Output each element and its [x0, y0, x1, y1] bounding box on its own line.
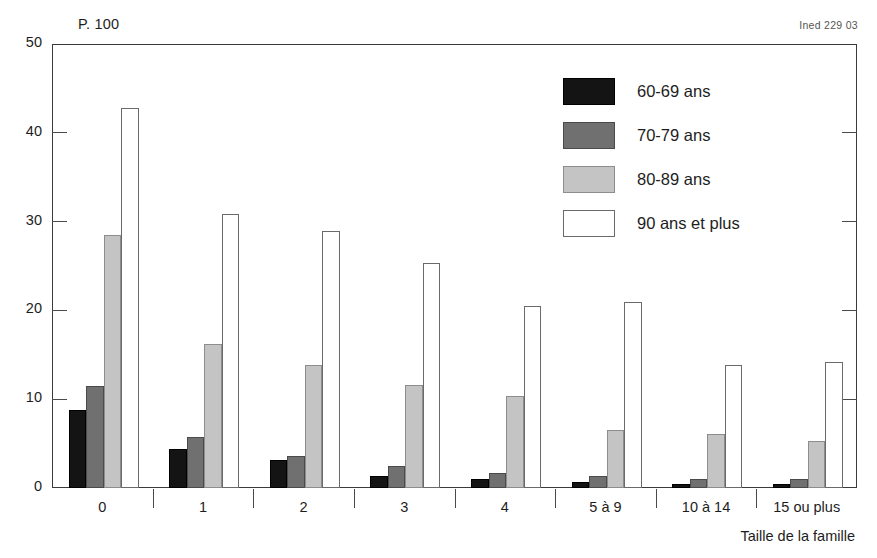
y-tick-mark: [842, 132, 857, 133]
legend-label: 60-69 ans: [637, 82, 710, 101]
y-tick-label: 30: [2, 212, 42, 228]
legend-swatch: [563, 166, 615, 193]
y-tick-mark: [52, 399, 67, 400]
y-tick-mark: [842, 221, 857, 222]
x-tick-label: 0: [52, 499, 153, 515]
x-tick-label: 1: [153, 499, 254, 515]
source-note: Ined 229 03: [799, 19, 858, 31]
y-tick-mark: [52, 310, 67, 311]
y-tick-mark: [52, 221, 67, 222]
chart-figure: P. 100 Ined 229 03 01020304050 012345 à …: [0, 0, 877, 558]
y-tick-label: 0: [2, 478, 42, 494]
legend-item: 60-69 ans: [563, 69, 740, 113]
legend-swatch: [563, 122, 615, 149]
x-tick-label: 10 à 14: [656, 499, 757, 515]
y-tick-mark: [842, 310, 857, 311]
legend-item: 70-79 ans: [563, 113, 740, 157]
y-tick-label: 40: [2, 123, 42, 139]
x-tick-label: 2: [253, 499, 354, 515]
y-tick-label: 50: [2, 34, 42, 50]
legend-item: 90 ans et plus: [563, 201, 740, 245]
legend-item: 80-89 ans: [563, 157, 740, 201]
y-tick-label: 10: [2, 389, 42, 405]
legend-label: 80-89 ans: [637, 170, 710, 189]
x-tick-label: 15 ou plus: [756, 499, 857, 515]
chart-legend: 60-69 ans70-79 ans80-89 ans90 ans et plu…: [563, 69, 740, 245]
y-tick-mark: [52, 132, 67, 133]
legend-label: 90 ans et plus: [637, 214, 740, 233]
x-axis-title: Taille de la famille: [741, 528, 855, 544]
legend-swatch: [563, 210, 615, 237]
legend-swatch: [563, 78, 615, 105]
x-tick-label: 4: [455, 499, 556, 515]
y-tick-label: 20: [2, 300, 42, 316]
legend-label: 70-79 ans: [637, 126, 710, 145]
x-tick-label: 3: [354, 499, 455, 515]
unit-note: P. 100: [78, 16, 119, 32]
x-tick-label: 5 à 9: [555, 499, 656, 515]
y-tick-mark: [842, 399, 857, 400]
